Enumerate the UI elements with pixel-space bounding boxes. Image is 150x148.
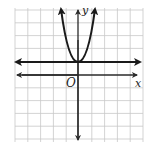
- origin-label: O: [66, 77, 76, 89]
- y-axis-label: y: [82, 5, 88, 16]
- coordinate-graph: [0, 0, 150, 148]
- x-axis-label: x: [135, 78, 141, 89]
